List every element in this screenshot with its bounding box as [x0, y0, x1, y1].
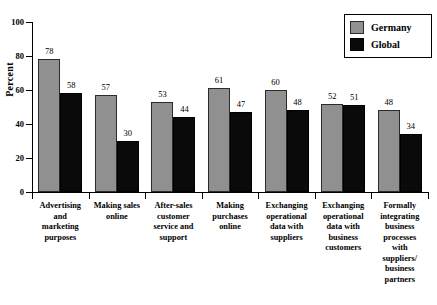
category-label: Formallyintegratingbusinessprocesseswith… [371, 201, 428, 285]
bar-global: 47 [230, 112, 252, 192]
bar-value-label: 61 [215, 76, 224, 85]
bar-value-label: 34 [407, 122, 416, 131]
legend-label-germany: Germany [371, 23, 412, 33]
bar-germany: 60 [265, 90, 287, 192]
bar-value-label: 44 [180, 105, 189, 114]
category-label: Exchangingoperationaldata withbusinesscu… [315, 201, 372, 285]
category-separator-tick [258, 192, 259, 199]
bar-group: 7858 [32, 22, 89, 192]
bar-germany: 61 [208, 88, 230, 192]
bar-global: 34 [400, 134, 422, 192]
bar-global: 58 [60, 93, 82, 192]
category-separator-tick [89, 192, 90, 199]
category-separator-tick [145, 192, 146, 199]
bar-group: 5344 [145, 22, 202, 192]
y-tick-label: 20 [0, 154, 24, 163]
y-tick-label: 80 [0, 52, 24, 61]
category-separator-tick [202, 192, 203, 199]
category-separator-tick [32, 192, 33, 199]
bar-germany: 53 [151, 102, 173, 192]
bar-value-label: 47 [237, 100, 246, 109]
bar-value-label: 48 [385, 98, 394, 107]
category-separator-tick [371, 192, 372, 199]
bar-global: 44 [173, 117, 195, 192]
category-label: After-salescustomerservice andsupport [145, 201, 202, 285]
bar-global: 30 [117, 141, 139, 192]
x-axis-line [32, 192, 428, 193]
bar-germany: 57 [95, 95, 117, 192]
legend: Germany Global [344, 14, 432, 58]
bar-value-label: 58 [67, 81, 76, 90]
category-label: Makingpurchasesonline [202, 201, 259, 285]
bar-value-label: 78 [45, 47, 54, 56]
bar-global: 51 [343, 105, 365, 192]
bar-value-label: 30 [124, 129, 133, 138]
y-tick-label: 0 [0, 188, 24, 197]
category-label: Advertisingandmarketingpurposes [32, 201, 89, 285]
bar-value-label: 52 [328, 92, 337, 101]
legend-item-germany: Germany [350, 21, 426, 34]
bar-value-label: 51 [350, 93, 359, 102]
legend-swatch-germany [350, 21, 364, 34]
category-separator-tick [315, 192, 316, 199]
category-label: Exchangingoperationaldata withsuppliers [258, 201, 315, 285]
bar-germany: 78 [38, 59, 60, 192]
chart-root: Percent 020406080100 7858573053446147604… [0, 0, 437, 305]
bar-value-label: 48 [293, 98, 302, 107]
y-tick-label: 40 [0, 120, 24, 129]
bar-group: 5730 [89, 22, 146, 192]
y-tick-label: 60 [0, 86, 24, 95]
x-axis-category-labels: AdvertisingandmarketingpurposesMaking sa… [32, 201, 428, 285]
bar-global: 48 [287, 110, 309, 192]
bar-value-label: 60 [271, 78, 280, 87]
bar-group: 6048 [258, 22, 315, 192]
category-separator-tick [428, 192, 429, 199]
legend-item-global: Global [350, 38, 426, 51]
bar-value-label: 57 [102, 83, 111, 92]
bar-germany: 48 [378, 110, 400, 192]
y-tick-label: 100 [0, 18, 24, 27]
legend-swatch-global [350, 38, 364, 51]
bar-group: 6147 [202, 22, 259, 192]
bar-value-label: 53 [158, 90, 167, 99]
legend-label-global: Global [371, 40, 400, 50]
category-label: Making salesonline [89, 201, 146, 285]
bar-germany: 52 [321, 104, 343, 192]
